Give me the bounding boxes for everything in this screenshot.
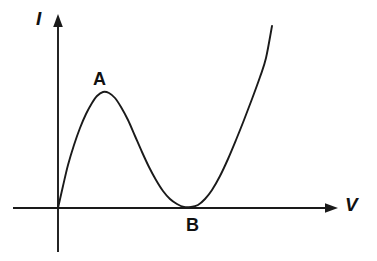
peak-point-label: A	[93, 69, 106, 89]
voltage-axis-label: V	[345, 194, 359, 215]
valley-point-label: B	[186, 215, 199, 235]
current-axis-label: I	[36, 8, 42, 29]
current-axis-arrow-icon	[53, 14, 63, 27]
iv-curve-path	[58, 26, 272, 208]
iv-curve-svg: I V A B	[0, 0, 377, 261]
iv-characteristic-figure: I V A B	[0, 0, 377, 261]
voltage-axis-arrow-icon	[325, 203, 338, 213]
